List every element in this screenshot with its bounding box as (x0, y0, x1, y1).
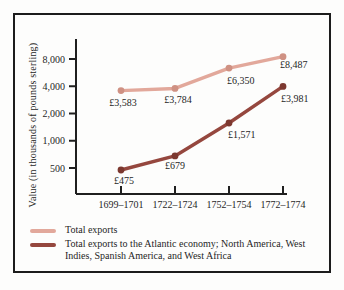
data-point (118, 167, 125, 174)
chart-frame: 8,0004,0002,0001,0005001699–17011722–172… (13, 13, 331, 273)
series-line (121, 86, 283, 170)
data-point (118, 87, 125, 94)
data-point-label: £679 (165, 160, 185, 171)
y-tick-label: 8,000 (43, 54, 66, 65)
data-point-label: £3,784 (164, 94, 192, 105)
y-tick-label: 1,000 (43, 135, 66, 146)
data-point (172, 85, 179, 92)
data-point (226, 120, 233, 127)
y-tick-label: 500 (50, 163, 65, 174)
legend-label: Total exports (65, 224, 117, 236)
series-line (121, 57, 283, 91)
data-point (280, 83, 287, 90)
data-point-label: £3,981 (281, 93, 309, 104)
data-point (226, 65, 233, 72)
y-axis-label: Value (in thousands of pounds sterling) (27, 20, 43, 230)
y-tick-label: 4,000 (43, 81, 66, 92)
series-total-exports: £3,583£3,784£6,350£8,487 (109, 53, 307, 107)
line-chart: 8,0004,0002,0001,0005001699–17011722–172… (15, 15, 329, 215)
chart-legend: Total exports Total exports to the Atlan… (30, 224, 323, 262)
x-tick-label: 1722–1724 (153, 199, 198, 210)
x-tick-label: 1752–1754 (207, 199, 252, 210)
data-point-label: £8,487 (280, 59, 308, 70)
data-point-label: £3,583 (109, 97, 137, 108)
data-point-label: £6,350 (227, 75, 255, 86)
series-atlantic-exports: £475£679£1,571£3,981 (114, 83, 309, 186)
data-point (172, 153, 179, 160)
legend-label: Total exports to the Atlantic economy; N… (65, 238, 323, 262)
data-point-label: £1,571 (228, 129, 256, 140)
legend-item-total-exports: Total exports (30, 224, 323, 236)
data-point-label: £475 (114, 175, 134, 186)
atlantic-exports-swatch (30, 243, 56, 247)
legend-item-atlantic-exports: Total exports to the Atlantic economy; N… (30, 238, 323, 262)
total-exports-swatch (30, 229, 56, 233)
x-tick-label: 1772–1774 (261, 199, 306, 210)
x-tick-label: 1699–1701 (99, 199, 144, 210)
y-tick-label: 2,000 (43, 108, 66, 119)
